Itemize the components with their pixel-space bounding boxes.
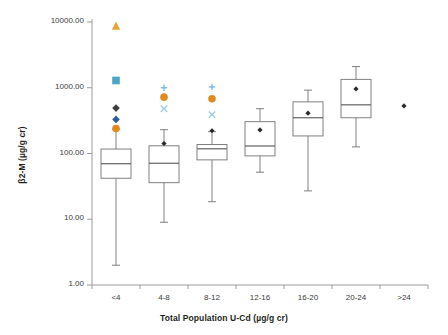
outlier-marker — [161, 85, 167, 91]
outlier-marker — [112, 77, 120, 85]
outlier-marker — [112, 125, 120, 133]
box-iqr — [341, 79, 371, 117]
outlier-marker — [112, 104, 120, 112]
box-iqr — [149, 146, 179, 183]
outlier-marker — [209, 84, 215, 90]
mean-marker — [305, 111, 310, 116]
y-axis-tick-label: 1.00 — [14, 279, 84, 288]
outlier-marker — [209, 111, 215, 117]
mean-marker — [353, 86, 358, 91]
x-axis-tick-label: >24 — [374, 293, 434, 302]
box-iqr — [245, 122, 275, 156]
y-axis-tick-label: 1000.00 — [14, 82, 84, 91]
y-axis-tick-label: 100.00 — [14, 148, 84, 157]
box-iqr — [197, 145, 227, 160]
boxplot-chart: β2-M (µg/g cr) Total Population U-Cd (µg… — [0, 0, 448, 335]
box-iqr — [293, 102, 323, 136]
outlier-marker — [112, 116, 120, 124]
mean-marker — [209, 128, 214, 133]
mean-marker — [257, 127, 262, 132]
outlier-marker — [112, 21, 120, 29]
y-axis-tick-label: 10.00 — [14, 213, 84, 222]
outlier-marker — [208, 95, 216, 103]
outlier-marker — [160, 93, 168, 101]
mean-marker — [401, 103, 406, 108]
x-axis-title: Total Population U-Cd (µg/g cr) — [0, 313, 448, 323]
y-axis-tick-label: 10000.00 — [14, 16, 84, 25]
outlier-marker — [161, 106, 167, 112]
